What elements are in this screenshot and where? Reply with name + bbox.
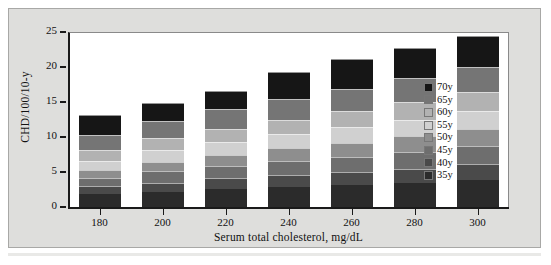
bar-segment-50y[interactable] <box>205 155 247 166</box>
legend-swatch-icon <box>424 146 433 155</box>
bar-segment-65y[interactable] <box>79 135 121 150</box>
bar-segment-70y[interactable] <box>457 36 499 68</box>
legend: 70y65y60y55y50y45y40y35y <box>424 81 486 182</box>
figure-panel: 0510152025 CHD/100/10-y 70y65y60y55y50y4… <box>8 8 541 248</box>
bar-segment-35y[interactable] <box>268 187 310 207</box>
bar-segment-40y[interactable] <box>142 183 184 192</box>
x-tick-mark <box>289 209 290 215</box>
legend-swatch-icon <box>424 108 433 117</box>
bar-segment-55y[interactable] <box>79 161 121 170</box>
bar-segment-70y[interactable] <box>268 72 310 99</box>
legend-item-45y[interactable]: 45y <box>424 144 486 157</box>
bar-segment-65y[interactable] <box>331 89 373 111</box>
bar-stack <box>331 59 373 207</box>
bar-segment-60y[interactable] <box>142 138 184 150</box>
bar-segment-60y[interactable] <box>268 120 310 135</box>
bottom-strip <box>8 253 541 256</box>
x-tick-label: 280 <box>392 216 438 228</box>
legend-item-70y[interactable]: 70y <box>424 81 486 94</box>
x-tick-mark <box>415 209 416 215</box>
bar-segment-35y[interactable] <box>331 185 373 207</box>
bar-stack <box>205 91 247 207</box>
x-tick-label: 260 <box>329 216 375 228</box>
bar-segment-35y[interactable] <box>142 192 184 207</box>
bar-segment-70y[interactable] <box>142 103 184 121</box>
bar-segment-70y[interactable] <box>331 59 373 88</box>
legend-label: 55y <box>437 120 453 131</box>
bar-segment-45y[interactable] <box>142 171 184 182</box>
y-axis-title: CHD/100/10-y <box>19 47 31 167</box>
y-tick-mark <box>60 206 66 208</box>
x-tick-label: 180 <box>77 216 123 228</box>
legend-label: 35y <box>437 170 453 181</box>
bar-stack <box>79 115 121 207</box>
bar-segment-55y[interactable] <box>205 142 247 155</box>
bar-group[interactable] <box>331 59 373 207</box>
bar-segment-45y[interactable] <box>331 157 373 172</box>
bar-segment-35y[interactable] <box>394 183 436 207</box>
bar-segment-65y[interactable] <box>205 109 247 129</box>
y-tick-label: 15 <box>46 94 57 106</box>
bar-group[interactable] <box>268 72 310 207</box>
legend-label: 70y <box>437 82 453 93</box>
legend-swatch-icon <box>424 121 433 130</box>
legend-item-40y[interactable]: 40y <box>424 157 486 170</box>
y-tick-mark <box>60 101 66 103</box>
legend-item-50y[interactable]: 50y <box>424 131 486 144</box>
bar-segment-45y[interactable] <box>268 161 310 175</box>
bar-segment-60y[interactable] <box>331 111 373 127</box>
bar-segment-55y[interactable] <box>142 150 184 161</box>
x-tick-mark <box>478 209 479 215</box>
bar-segment-70y[interactable] <box>205 91 247 109</box>
legend-item-35y[interactable]: 35y <box>424 169 486 182</box>
bar-segment-45y[interactable] <box>205 166 247 179</box>
y-tick-mark <box>60 171 66 173</box>
legend-label: 45y <box>437 145 453 156</box>
bar-stack <box>268 72 310 207</box>
legend-swatch-icon <box>424 83 433 92</box>
bar-segment-50y[interactable] <box>331 143 373 157</box>
bar-segment-50y[interactable] <box>79 170 121 178</box>
y-tick-label: 20 <box>46 59 57 71</box>
x-tick-mark <box>163 209 164 215</box>
bar-segment-35y[interactable] <box>205 189 247 207</box>
y-tick-label: 10 <box>46 129 57 141</box>
legend-label: 40y <box>437 158 453 169</box>
x-tick-label: 240 <box>266 216 312 228</box>
y-tick-mark <box>60 66 66 68</box>
bar-segment-40y[interactable] <box>268 175 310 187</box>
bar-group[interactable] <box>79 115 121 207</box>
bar-segment-55y[interactable] <box>268 134 310 148</box>
bar-segment-40y[interactable] <box>79 186 121 194</box>
bar-segment-50y[interactable] <box>268 148 310 161</box>
legend-item-65y[interactable]: 65y <box>424 94 486 107</box>
bar-group[interactable] <box>142 103 184 207</box>
bar-segment-65y[interactable] <box>268 99 310 120</box>
bar-segment-35y[interactable] <box>79 194 121 207</box>
legend-item-60y[interactable]: 60y <box>424 106 486 119</box>
bar-segment-50y[interactable] <box>142 162 184 172</box>
x-tick-label: 220 <box>203 216 249 228</box>
bar-segment-60y[interactable] <box>205 129 247 142</box>
bar-segment-60y[interactable] <box>79 150 121 161</box>
legend-item-55y[interactable]: 55y <box>424 119 486 132</box>
x-tick-mark <box>226 209 227 215</box>
legend-swatch-icon <box>424 133 433 142</box>
bar-segment-70y[interactable] <box>394 48 436 78</box>
bar-segment-55y[interactable] <box>331 127 373 142</box>
legend-swatch-icon <box>424 171 433 180</box>
y-tick-label: 25 <box>46 24 57 36</box>
legend-swatch-icon <box>424 95 433 104</box>
bar-segment-45y[interactable] <box>79 178 121 186</box>
legend-label: 50y <box>437 132 453 143</box>
bar-segment-40y[interactable] <box>205 178 247 189</box>
legend-label: 60y <box>437 107 453 118</box>
bar-group[interactable] <box>205 91 247 207</box>
bar-segment-35y[interactable] <box>457 180 499 207</box>
bar-segment-70y[interactable] <box>79 115 121 135</box>
x-axis-title: Serum total cholesterol, mg/dL <box>68 231 509 243</box>
bar-segment-65y[interactable] <box>142 121 184 139</box>
legend-swatch-icon <box>424 158 433 167</box>
bar-segment-40y[interactable] <box>331 172 373 185</box>
y-tick-label: 5 <box>52 164 58 176</box>
